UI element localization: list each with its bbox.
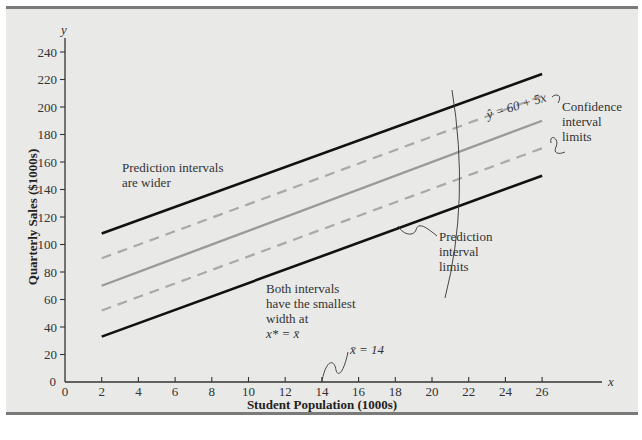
- confidence-pointer-upper: [552, 95, 560, 103]
- y-tick-label: 140: [38, 182, 58, 197]
- y-axis: y 20406080100120140160180200220240 0 Qua…: [25, 22, 67, 389]
- prediction-label-line3: limits: [439, 259, 469, 274]
- smallest-label-line2: have the smallest: [266, 296, 356, 311]
- y-tick-label: 180: [38, 127, 58, 142]
- xbar-label: x̄ = 14: [349, 342, 385, 357]
- confidence-label-line2: interval: [562, 114, 602, 129]
- confidence-label-line1: Confidence: [562, 99, 622, 114]
- xbar-pointer: [322, 352, 348, 381]
- y-tick-label: 80: [44, 265, 57, 280]
- confidence-label-group: Confidence interval limits: [551, 95, 622, 153]
- y-tick-label: 60: [44, 292, 57, 307]
- y-tick-label: 100: [38, 237, 58, 252]
- wider-label-group: Prediction intervals are wider: [122, 160, 223, 190]
- x-tick-label: 6: [172, 384, 179, 399]
- x-tick-label: 22: [462, 384, 475, 399]
- y-tick-label: 120: [38, 210, 58, 225]
- x-tick-label: 2: [98, 384, 105, 399]
- smallest-width-label-group: Both intervals have the smallest width a…: [265, 281, 356, 341]
- x-axis: x 02468101214161820222426 Student Popula…: [62, 374, 614, 412]
- xbar-label-group: x̄ = 14: [322, 342, 385, 381]
- y-tick-label: 240: [38, 45, 58, 60]
- prediction-label-line2: interval: [439, 244, 479, 259]
- x-tick-label: 0: [62, 384, 69, 399]
- regression-line: [102, 121, 542, 286]
- smallest-label-line1: Both intervals: [266, 281, 339, 296]
- wider-label-line2: are wider: [122, 175, 171, 190]
- y-tick-label: 220: [38, 72, 58, 87]
- x-tick-label: 4: [135, 384, 142, 399]
- y-tick-label: 40: [44, 320, 57, 335]
- chart-svg: y 20406080100120140160180200220240 0 Qua…: [0, 0, 642, 440]
- equation-text: ŷ = 60 + 5x: [483, 89, 548, 122]
- x-axis-title: Student Population (1000s): [247, 397, 397, 412]
- y-tick-label: 200: [38, 100, 58, 115]
- x-tick-label: 20: [426, 384, 439, 399]
- confidence-label-line3: limits: [562, 129, 592, 144]
- x-axis-symbol: x: [607, 374, 614, 389]
- x-tick-label: 26: [536, 384, 550, 399]
- upper-prediction-line: [102, 74, 542, 234]
- smallest-label-line4: x* = x̄: [265, 326, 300, 341]
- y-axis-title: Quarterly Sales ($1000s): [25, 149, 40, 285]
- wider-label-line1: Prediction intervals: [122, 160, 223, 175]
- prediction-label-group: Prediction interval limits: [398, 226, 493, 274]
- x-tick-label: 8: [209, 384, 216, 399]
- prediction-label-line1: Prediction: [439, 229, 493, 244]
- y-origin-label: 0: [50, 374, 57, 389]
- y-tick-label: 20: [44, 347, 57, 362]
- equation-label: ŷ = 60 + 5x: [483, 89, 548, 122]
- x-tick-label: 24: [499, 384, 513, 399]
- y-axis-symbol: y: [59, 22, 67, 37]
- y-tick-label: 160: [38, 155, 58, 170]
- smallest-label-line3: width at: [266, 311, 309, 326]
